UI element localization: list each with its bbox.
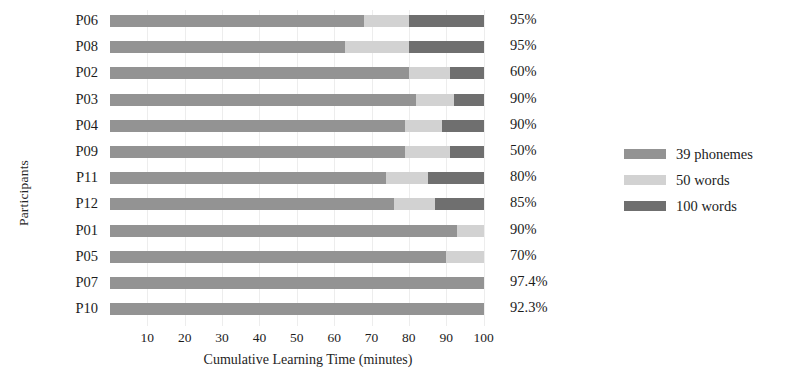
- legend-swatch-phonemes: [624, 149, 666, 159]
- plot-area: P0695%P0895%P0260%P0390%P0490%P0950%P118…: [110, 10, 506, 326]
- bar-segment-w50: [386, 172, 427, 184]
- bar-value-label: 95%: [510, 11, 537, 28]
- x-tick-label: 90: [426, 330, 466, 346]
- bar-segment-phonemes: [110, 225, 457, 237]
- bar-segment-phonemes: [110, 172, 386, 184]
- bar-value-label: 90%: [510, 90, 537, 107]
- bar-value-label: 80%: [510, 168, 537, 185]
- legend: 39 phonemes50 words100 words: [624, 140, 804, 218]
- bar-segment-phonemes: [110, 67, 409, 79]
- bar-segment-w50: [405, 146, 450, 158]
- bar-segment-phonemes: [110, 251, 446, 263]
- y-tick-label: P02: [2, 65, 98, 80]
- bar-segment-phonemes: [110, 94, 416, 106]
- bar-value-label: 95%: [510, 37, 537, 54]
- y-tick-label: P11: [2, 170, 98, 185]
- y-tick-label: P08: [2, 39, 98, 54]
- bar-segment-w100: [442, 120, 483, 132]
- bar-value-label: 92.3%: [510, 299, 547, 316]
- y-tick-label: P04: [2, 118, 98, 133]
- x-tick-label: 20: [165, 330, 205, 346]
- y-tick-label: P12: [2, 196, 98, 211]
- bar-row: P0570%: [110, 246, 506, 272]
- legend-label: 50 words: [676, 167, 730, 193]
- bar-segment-phonemes: [110, 277, 484, 289]
- bar-segment-w50: [457, 225, 483, 237]
- x-tick-label: 80: [389, 330, 429, 346]
- bar-value-label: 70%: [510, 247, 537, 264]
- bar-row: P0260%: [110, 62, 506, 88]
- bar-value-label: 90%: [510, 116, 537, 133]
- x-tick-label: 10: [127, 330, 167, 346]
- bar-segment-w50: [364, 15, 409, 27]
- stacked-bar: [110, 172, 484, 184]
- bar-chart: Participants P0695%P0895%P0260%P0390%P04…: [0, 0, 809, 381]
- y-tick-label: P07: [2, 275, 98, 290]
- bar-row: P1092.3%: [110, 298, 506, 324]
- bar-segment-w100: [409, 41, 484, 53]
- bar-value-label: 97.4%: [510, 273, 547, 290]
- bar-segment-w50: [394, 198, 435, 210]
- legend-item: 100 words: [624, 192, 804, 218]
- x-axis: 102030405060708090100: [110, 330, 506, 350]
- stacked-bar: [110, 41, 484, 53]
- y-tick-label: P05: [2, 249, 98, 264]
- stacked-bar: [110, 120, 484, 132]
- bar-segment-w100: [428, 172, 484, 184]
- bar-value-label: 85%: [510, 194, 537, 211]
- bar-value-label: 90%: [510, 221, 537, 238]
- bar-segment-w50: [446, 251, 483, 263]
- y-tick-label: P06: [2, 13, 98, 28]
- x-tick-label: 40: [239, 330, 279, 346]
- stacked-bar: [110, 225, 484, 237]
- bar-row: P0797.4%: [110, 272, 506, 298]
- bar-segment-w100: [450, 146, 484, 158]
- bar-segment-w100: [450, 67, 484, 79]
- bar-segment-phonemes: [110, 146, 405, 158]
- stacked-bar: [110, 94, 484, 106]
- bar-segment-w50: [416, 94, 453, 106]
- bar-segment-phonemes: [110, 198, 394, 210]
- bar-segment-phonemes: [110, 41, 345, 53]
- bar-value-label: 60%: [510, 63, 537, 80]
- bar-segment-w50: [405, 120, 442, 132]
- bar-segment-phonemes: [110, 303, 484, 315]
- legend-swatch-w100: [624, 201, 666, 211]
- bar-row: P1285%: [110, 193, 506, 219]
- stacked-bar: [110, 198, 484, 210]
- bar-row: P0950%: [110, 141, 506, 167]
- x-axis-title: Cumulative Learning Time (minutes): [110, 352, 506, 368]
- bar-value-label: 50%: [510, 142, 537, 159]
- bar-segment-w50: [409, 67, 450, 79]
- x-tick-label: 60: [314, 330, 354, 346]
- y-tick-label: P09: [2, 144, 98, 159]
- x-tick-label: 70: [352, 330, 392, 346]
- bar-row: P0695%: [110, 10, 506, 36]
- bar-row: P0390%: [110, 89, 506, 115]
- stacked-bar: [110, 67, 484, 79]
- x-tick-label: 30: [202, 330, 242, 346]
- bar-segment-w100: [454, 94, 484, 106]
- bar-segment-phonemes: [110, 15, 364, 27]
- bar-row: P0190%: [110, 220, 506, 246]
- legend-item: 39 phonemes: [624, 140, 804, 166]
- stacked-bar: [110, 303, 484, 315]
- bar-segment-phonemes: [110, 120, 405, 132]
- y-tick-label: P03: [2, 92, 98, 107]
- legend-label: 100 words: [676, 193, 737, 219]
- y-tick-label: P01: [2, 223, 98, 238]
- legend-item: 50 words: [624, 166, 804, 192]
- legend-label: 39 phonemes: [676, 141, 753, 167]
- stacked-bar: [110, 146, 484, 158]
- stacked-bar: [110, 251, 484, 263]
- bar-row: P0895%: [110, 36, 506, 62]
- bar-segment-w50: [345, 41, 409, 53]
- y-tick-label: P10: [2, 301, 98, 316]
- stacked-bar: [110, 15, 484, 27]
- bar-row: P1180%: [110, 167, 506, 193]
- bar-row: P0490%: [110, 115, 506, 141]
- x-tick-label: 100: [464, 330, 504, 346]
- bar-segment-w100: [435, 198, 484, 210]
- legend-swatch-w50: [624, 175, 666, 185]
- stacked-bar: [110, 277, 484, 289]
